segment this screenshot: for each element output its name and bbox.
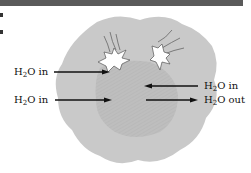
label-left-bottom: H2O in (14, 95, 48, 105)
label-right-bottom: H2O out (204, 95, 245, 105)
label-right-top: H2O in (204, 81, 238, 91)
label-left-top: H2O in (14, 67, 48, 77)
